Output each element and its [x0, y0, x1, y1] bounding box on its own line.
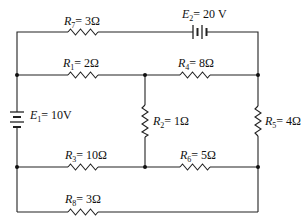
- label-r6: R6= 5Ω: [179, 148, 216, 164]
- junction-node: [143, 73, 147, 77]
- resistor-r3: [68, 164, 98, 170]
- junction-node: [15, 73, 19, 77]
- circuit-diagram: R7= 3Ω R1= 2Ω R4= 8Ω R2= 1Ω R5= 4Ω R3= 1…: [0, 0, 306, 224]
- label-r4: R4= 8Ω: [177, 56, 214, 72]
- label-e1: E1= 10V: [29, 108, 72, 124]
- resistor-r4: [180, 72, 210, 78]
- wire-top: [17, 32, 258, 75]
- label-r7: R7= 3Ω: [63, 14, 100, 30]
- label-r2: R2= 1Ω: [152, 114, 189, 130]
- resistor-r6: [180, 164, 210, 170]
- battery-e1: [10, 112, 24, 127]
- junction-node: [256, 165, 260, 169]
- label-r3: R3= 10Ω: [64, 148, 107, 164]
- label-e2: E2= 20 V: [181, 7, 227, 23]
- junction-node: [256, 73, 260, 77]
- resistor-r1: [68, 72, 98, 78]
- junction-node: [143, 165, 147, 169]
- junction-node: [15, 165, 19, 169]
- label-r1: R1= 2Ω: [62, 56, 99, 72]
- resistor-r5: [255, 106, 261, 136]
- resistor-r8: [68, 209, 98, 215]
- label-r8: R8= 3Ω: [64, 192, 101, 208]
- battery-e2: [193, 25, 207, 39]
- label-r5: R5= 4Ω: [264, 114, 301, 130]
- resistor-r2: [142, 105, 148, 137]
